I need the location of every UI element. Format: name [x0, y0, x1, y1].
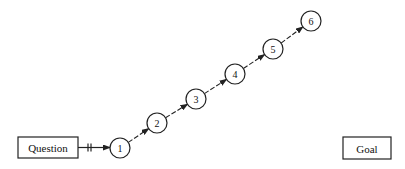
- node-label: 4: [233, 69, 238, 80]
- edge-1-to-2: [128, 129, 148, 143]
- node-label: 3: [194, 94, 199, 105]
- arrow-line: [281, 27, 303, 43]
- node-4: 4: [225, 64, 245, 84]
- nodes: 1 2 3 4 5 6: [110, 11, 321, 158]
- node-label: 5: [271, 44, 276, 55]
- arrow-line: [128, 129, 148, 143]
- question-label: Question: [28, 142, 68, 154]
- node-label: 6: [309, 16, 314, 27]
- edge-2-to-3: [166, 104, 188, 118]
- node-5: 5: [263, 39, 283, 59]
- diagram-canvas: Question Goal 1 2 3 4: [0, 0, 405, 169]
- edge-start_box-to-1: [78, 144, 110, 152]
- goal-label: Goal: [356, 143, 377, 155]
- edge-4-to-5: [243, 54, 264, 68]
- path-diagram: Question Goal 1 2 3 4: [0, 0, 405, 169]
- node-3: 3: [186, 89, 206, 109]
- node-label: 2: [155, 118, 160, 129]
- edge-3-to-4: [204, 79, 226, 93]
- node-label: 1: [118, 143, 123, 154]
- arrow-line: [204, 79, 226, 93]
- arrow-line: [166, 104, 188, 118]
- node-6: 6: [301, 11, 321, 31]
- goal-box: Goal: [343, 137, 391, 159]
- edge-5-to-6: [281, 27, 303, 43]
- question-box: Question: [18, 137, 78, 158]
- node-2: 2: [147, 113, 167, 133]
- arrow-line: [243, 54, 264, 68]
- node-1: 1: [110, 138, 130, 158]
